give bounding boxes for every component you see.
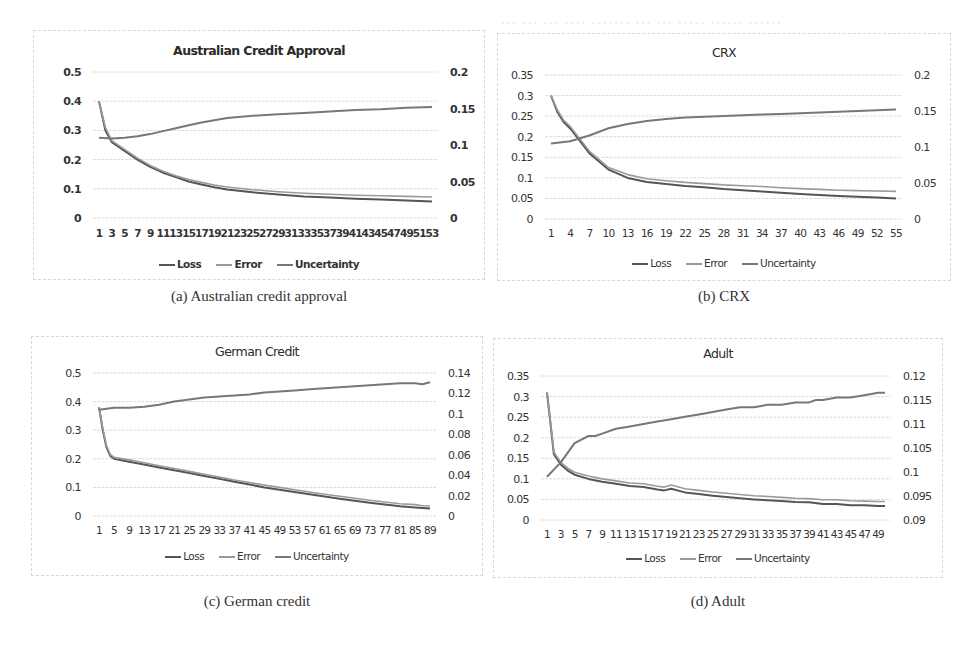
x-tick: 45 <box>845 528 857 540</box>
legend-label: Error <box>237 550 260 562</box>
x-tick: 49 <box>274 524 286 536</box>
x-tick: 22 <box>679 227 691 239</box>
legend-swatch-uncertainty <box>736 558 752 560</box>
x-tick: 52 <box>871 227 883 239</box>
y-tick-left: 0.3 <box>517 90 533 103</box>
x-tick: 11 <box>157 227 171 239</box>
chart-plot: 00.10.20.30.40.500.050.10.150.2135791113… <box>33 30 485 280</box>
y-tick-left: 0.2 <box>65 453 81 466</box>
y-tick-right: 0.115 <box>903 394 932 407</box>
y-tick-left: 0.25 <box>507 411 530 424</box>
x-tick: 23 <box>693 528 705 540</box>
legend-item-loss: Loss <box>165 550 204 562</box>
y-tick-left: 0.05 <box>511 192 534 205</box>
y-tick-left: 0.3 <box>513 391 529 404</box>
x-tick: 1 <box>548 227 554 239</box>
y-tick-right: 0.11 <box>903 418 925 431</box>
legend-label: Error <box>234 258 261 270</box>
y-tick-left: 0.2 <box>63 154 81 167</box>
x-tick: 21 <box>221 227 235 239</box>
x-tick: 33 <box>762 528 774 540</box>
y-tick-left: 0.2 <box>513 432 529 445</box>
legend-swatch-loss <box>626 558 642 560</box>
series-uncertainty <box>99 382 430 410</box>
y-tick-left: 0.15 <box>511 151 534 164</box>
y-tick-right: 0.12 <box>448 387 470 400</box>
legend-label: Uncertainty <box>760 257 816 269</box>
y-tick-right: 0.12 <box>903 370 925 383</box>
x-tick: 43 <box>361 227 375 239</box>
x-tick: 49 <box>872 528 884 540</box>
x-tick: 16 <box>641 227 654 239</box>
x-tick: 21 <box>168 524 180 536</box>
chart-legend: Loss Error Uncertainty <box>497 257 951 269</box>
legend-item-loss: Loss <box>632 257 671 269</box>
y-tick-left: 0.1 <box>517 172 533 185</box>
x-tick: 31 <box>285 227 299 239</box>
legend-swatch-error <box>216 264 232 266</box>
legend-swatch-uncertainty <box>277 264 293 266</box>
x-tick: 51 <box>413 227 427 239</box>
x-tick: 37 <box>229 524 241 536</box>
y-tick-left: 0.1 <box>65 481 81 494</box>
x-tick: 47 <box>387 227 401 239</box>
x-tick: 35 <box>776 528 788 540</box>
x-tick: 73 <box>364 524 376 536</box>
x-tick: 9 <box>147 227 154 239</box>
y-tick-right: 0.1 <box>914 141 930 154</box>
y-tick-left: 0.15 <box>507 452 530 465</box>
x-tick: 37 <box>789 528 801 540</box>
y-tick-right: 0 <box>450 212 458 225</box>
y-tick-left: 0 <box>527 213 534 226</box>
x-tick: 25 <box>698 227 710 239</box>
legend-label: Loss <box>650 257 671 269</box>
series-loss <box>99 407 430 508</box>
legend-label: Loss <box>644 552 665 564</box>
x-tick: 57 <box>304 524 316 536</box>
background-text: ··· ··· ··· ···· ······· ··· ··· ····· ·… <box>500 14 782 34</box>
y-tick-left: 0.25 <box>511 110 534 123</box>
chart-legend: Loss Error Uncertainty <box>33 258 485 270</box>
chart-legend: Loss Error Uncertainty <box>31 550 483 562</box>
x-tick: 47 <box>858 528 870 540</box>
x-tick: 5 <box>121 227 128 239</box>
x-tick: 1 <box>96 227 103 239</box>
x-tick: 28 <box>718 227 730 239</box>
x-tick: 7 <box>134 227 141 239</box>
x-tick: 3 <box>558 528 564 540</box>
y-tick-right: 0.095 <box>903 490 932 503</box>
chart-panel-a: Australian Credit Approval 00.10.20.30.4… <box>33 30 485 280</box>
y-tick-right: 0.15 <box>450 103 475 116</box>
legend-item-error: Error <box>680 552 721 564</box>
x-tick: 15 <box>638 528 650 540</box>
series-error <box>551 96 896 192</box>
x-tick: 29 <box>198 524 210 536</box>
figure-caption-c: (c) German credit <box>31 593 483 610</box>
x-tick: 43 <box>813 227 825 239</box>
x-tick: 9 <box>126 524 132 536</box>
x-tick: 5 <box>572 528 578 540</box>
chart-plot: 00.050.10.150.20.250.30.3500.050.10.150.… <box>497 33 951 281</box>
y-tick-right: 0.2 <box>914 69 930 82</box>
x-tick: 1 <box>96 524 102 536</box>
x-tick: 49 <box>852 227 864 239</box>
x-tick: 25 <box>183 524 195 536</box>
y-tick-right: 0 <box>448 510 455 523</box>
x-tick: 45 <box>259 524 271 536</box>
y-tick-left: 0.2 <box>517 131 533 144</box>
x-tick: 31 <box>748 528 760 540</box>
x-tick: 13 <box>169 227 183 239</box>
x-tick: 46 <box>833 227 846 239</box>
figure-caption-b: (b) CRX <box>497 288 951 305</box>
series-loss <box>99 101 432 201</box>
legend-swatch-uncertainty <box>742 263 758 265</box>
x-tick: 45 <box>374 227 388 239</box>
x-tick: 1 <box>544 528 550 540</box>
x-tick: 35 <box>310 227 324 239</box>
y-tick-right: 0.05 <box>450 176 475 189</box>
y-tick-left: 0 <box>523 514 530 527</box>
legend-item-uncertainty: Uncertainty <box>275 550 349 562</box>
legend-label: Uncertainty <box>293 550 349 562</box>
series-loss <box>547 393 885 507</box>
x-tick: 17 <box>195 227 209 239</box>
